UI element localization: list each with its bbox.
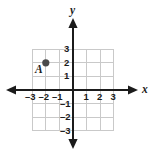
y-axis-label: y bbox=[70, 4, 75, 16]
y-tick-label-pos1: 1 bbox=[64, 71, 69, 81]
y-tick-label-neg3: –3 bbox=[60, 126, 71, 136]
y-axis-arrow-down bbox=[68, 139, 77, 149]
x-axis-label: x bbox=[142, 83, 148, 95]
y-tick-label-neg2: –2 bbox=[60, 112, 71, 122]
y-axis-arrow-up bbox=[68, 18, 77, 28]
y-tick-label-pos3: 3 bbox=[64, 44, 69, 54]
data-point-a bbox=[42, 59, 49, 66]
point-a-label: A bbox=[35, 63, 43, 75]
x-tick-label-pos3: 3 bbox=[111, 92, 116, 102]
x-tick-label-neg2: –2 bbox=[39, 92, 50, 102]
x-tick-label-neg3: –3 bbox=[25, 92, 36, 102]
y-tick-label-neg1: –1 bbox=[60, 99, 71, 109]
x-tick-label-pos2: 2 bbox=[97, 92, 102, 102]
x-axis-arrow-left bbox=[6, 85, 16, 94]
y-tick-label-pos2: 2 bbox=[64, 58, 69, 68]
x-tick-label-pos1: 1 bbox=[84, 92, 89, 102]
x-axis-arrow-right bbox=[128, 85, 138, 94]
coordinate-plane-figure: –3 –2 –1 1 2 3 3 2 1 –1 –2 –3 y x A bbox=[0, 0, 157, 151]
coordinate-plane-graphic bbox=[0, 0, 157, 151]
